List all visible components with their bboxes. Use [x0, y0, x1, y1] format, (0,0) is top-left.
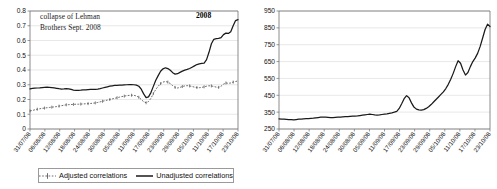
correlations-chart: 00.10.20.30.40.50.60.70.831/07/0806/08/0… [0, 0, 245, 189]
legend-label-adjusted-correlations: Adjusted correlations [59, 171, 127, 180]
svg-text:850: 850 [264, 24, 275, 31]
legend-left: Adjusted correlations Unadjusted correla… [38, 168, 234, 183]
svg-text:0.2: 0.2 [17, 96, 26, 103]
figure-container: 00.10.20.30.40.50.60.70.831/07/0806/08/0… [0, 0, 497, 189]
svg-text:0.1: 0.1 [17, 111, 26, 118]
lehman-annotation-left-line2: Brothers Sept. 2008 [40, 23, 101, 34]
svg-text:0.4: 0.4 [17, 66, 26, 73]
embi-spread-chart: 25035045055065075085095031/07/0806/08/08… [245, 0, 497, 189]
svg-text:750: 750 [264, 41, 275, 48]
svg-text:0.7: 0.7 [17, 22, 26, 29]
svg-text:550: 550 [264, 75, 275, 82]
chart-panel-left: 00.10.20.30.40.50.60.70.831/07/0806/08/0… [0, 0, 245, 189]
svg-text:0.5: 0.5 [17, 52, 26, 59]
svg-text:350: 350 [264, 109, 275, 116]
svg-text:0.3: 0.3 [17, 81, 26, 88]
year-label-left: 2008 [196, 11, 211, 20]
svg-text:0.8: 0.8 [17, 7, 26, 14]
solid-line-swatch-icon [136, 172, 153, 180]
legend-label-unadjusted-correlations: Unadjusted correlations [156, 171, 233, 180]
svg-text:650: 650 [264, 58, 275, 65]
svg-text:950: 950 [264, 7, 275, 14]
legend-item-unadjusted-correlations: Unadjusted correlations [136, 171, 233, 180]
chart-panel-right: 25035045055065075085095031/07/0806/08/08… [245, 0, 497, 189]
svg-text:450: 450 [264, 92, 275, 99]
lehman-annotation-left-line1: collapse of Lehman [40, 12, 101, 23]
legend-item-adjusted-correlations: Adjusted correlations [39, 171, 127, 180]
dotted-line-swatch-icon [39, 172, 56, 180]
lehman-annotation-left: collapse of Lehman Brothers Sept. 2008 [40, 12, 101, 33]
svg-text:0.6: 0.6 [17, 37, 26, 44]
